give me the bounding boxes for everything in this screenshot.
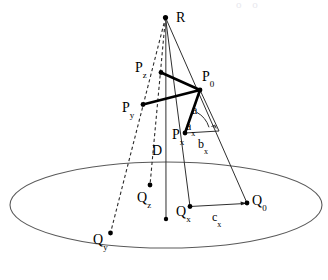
- point-label-Px: Px: [172, 126, 184, 145]
- point-dot-Q0: [245, 201, 250, 206]
- point-label-Qx: Qx: [176, 203, 191, 222]
- point-label-Qz: Qz: [137, 189, 151, 208]
- point-dot-Qz: [148, 183, 153, 188]
- cropped-text-artifact: o o: [236, 0, 262, 10]
- segment-cx: [190, 204, 245, 207]
- point-label-P0: P0: [202, 68, 214, 87]
- label-a-x: ax: [186, 117, 195, 136]
- segment-p0-corner: [200, 90, 219, 131]
- point-dot-R: [163, 15, 168, 20]
- right-angle-dot: [213, 126, 215, 128]
- point-label-Py: Py: [122, 99, 134, 118]
- label-c-x: cx: [212, 208, 221, 227]
- diagram-canvas: o o R P0 Pz Py Px Q0 Qx Qz Qy a ax bx cx…: [0, 0, 328, 280]
- point-dot-Py: [141, 102, 146, 107]
- point-label-Qy: Qy: [93, 231, 108, 250]
- angle-arc-ax: [197, 112, 209, 127]
- point-label-Pz: Pz: [135, 59, 147, 78]
- label-D: D: [152, 142, 162, 161]
- label-b-x: bx: [198, 135, 208, 154]
- point-label-Q0: Q0: [252, 192, 267, 211]
- point-dot-Qy: [108, 231, 113, 236]
- point-dot-P0: [198, 88, 203, 93]
- point-label-R: R: [176, 9, 185, 28]
- geometry-figure: [0, 0, 328, 280]
- point-dot-D-foot: [164, 217, 168, 221]
- point-dot-Pz: [159, 70, 164, 75]
